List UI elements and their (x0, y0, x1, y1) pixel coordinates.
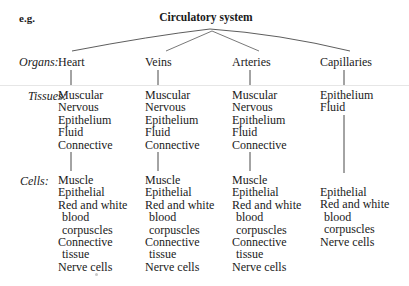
cell-item: Epithelial (232, 186, 301, 198)
tissue-item: Connective (145, 139, 200, 151)
cell-item: tissue (145, 248, 214, 260)
tissue-item: Nervous (145, 101, 200, 113)
organ-heart: Heart (58, 55, 85, 70)
cell-item: Red and white (320, 198, 389, 210)
cell-item: tissue (232, 248, 301, 260)
cell-item: Nerve cells (232, 261, 301, 273)
branch-capillaries (210, 29, 350, 51)
tissue-item: Fluid (145, 126, 200, 138)
organ-capillaries: Capillaries (320, 55, 372, 70)
cell-item: blood (58, 211, 127, 223)
branch-heart (72, 29, 210, 51)
cells-veins: Muscle Epithelial Red and white blood co… (145, 174, 214, 273)
cells-heart: Muscle Epithelial Red and white blood co… (58, 174, 127, 273)
tissue-item: Fluid (232, 126, 287, 138)
cell-item: corpuscles (320, 223, 389, 235)
cell-item: Nerve cells (58, 261, 127, 273)
tissue-item: Nervous (232, 101, 287, 113)
cells-row-label: Cells: (20, 174, 49, 189)
divider-line (0, 85, 409, 86)
cells-capillaries: Epithelial Red and white blood corpuscle… (320, 186, 389, 248)
branch-arteries (212, 31, 259, 51)
tissue-item: Connective (232, 139, 287, 151)
tissue-item: Connective (58, 139, 113, 151)
cell-item: Nerve cells (320, 236, 389, 248)
tissue-item: Fluid (58, 126, 113, 138)
cell-item: tissue (58, 248, 127, 260)
cell-item: Epithelial (58, 186, 127, 198)
cell-item: blood (232, 211, 301, 223)
tissues-veins: Muscular Nervous Epithelium Fluid Connec… (145, 89, 200, 151)
cells-arteries: Muscle Epithelial Red and white blood co… (232, 174, 301, 273)
tissues-capillaries: Epithelium Fluid (320, 89, 373, 114)
organ-arteries: Arteries (232, 55, 271, 70)
tissues-arteries: Muscular Nervous Epithelium Fluid Connec… (232, 89, 287, 151)
cell-item: Epithelial (145, 186, 214, 198)
organ-veins: Veins (145, 55, 172, 70)
tissue-item: Fluid (320, 101, 373, 113)
cell-item: Nerve cells (145, 261, 214, 273)
cell-item: blood (145, 211, 214, 223)
organs-row-label: Organs: (19, 55, 59, 70)
tissues-heart: Muscular Nervous Epithelium Fluid Connec… (58, 89, 113, 151)
speck-artifact (95, 273, 98, 276)
tissue-item: Nervous (58, 101, 113, 113)
